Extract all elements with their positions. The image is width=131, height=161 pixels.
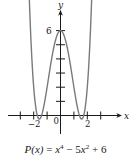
y-tick-label-6: 6 bbox=[46, 26, 52, 36]
x-tick-label-2: 2 bbox=[85, 119, 90, 129]
function-caption: P(x) = x4 − 5x2 + 6 bbox=[0, 143, 131, 155]
caption-op1: − 5 bbox=[64, 143, 81, 155]
caption-lhs: P(x) bbox=[25, 143, 44, 155]
x-tick-label-0: 0 bbox=[54, 116, 59, 126]
caption-eq: = bbox=[44, 143, 56, 155]
x-axis-label: x bbox=[124, 111, 129, 121]
polynomial-graph: y x 6 −2 0 2 bbox=[0, 0, 131, 161]
caption-op2: + 6 bbox=[89, 143, 106, 155]
x-tick-label-neg2: −2 bbox=[28, 119, 41, 129]
y-axis-label: y bbox=[57, 0, 64, 10]
